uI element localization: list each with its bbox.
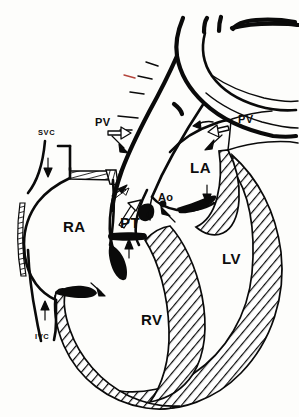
label-ao: Ao [158,191,173,203]
label-la: LA [190,159,211,176]
label-pv-left: PV [95,116,111,128]
cardiac-diagram-root: SVC IVC PV PV RA RV LA LV Ao PT [0,0,299,417]
label-rv: RV [141,311,163,328]
label-ra: RA [63,218,86,235]
pulmonary-valve-bar [108,232,147,241]
label-ivc: IVC [35,332,49,341]
label-svc: SVC [38,128,55,137]
label-pt: PT [120,214,140,231]
heart-anatomy-svg: SVC IVC PV PV RA RV LA LV Ao PT [0,0,299,417]
label-pv-right: PV [238,113,254,125]
label-lv: LV [222,250,241,267]
left-carotid-stub [219,17,221,31]
